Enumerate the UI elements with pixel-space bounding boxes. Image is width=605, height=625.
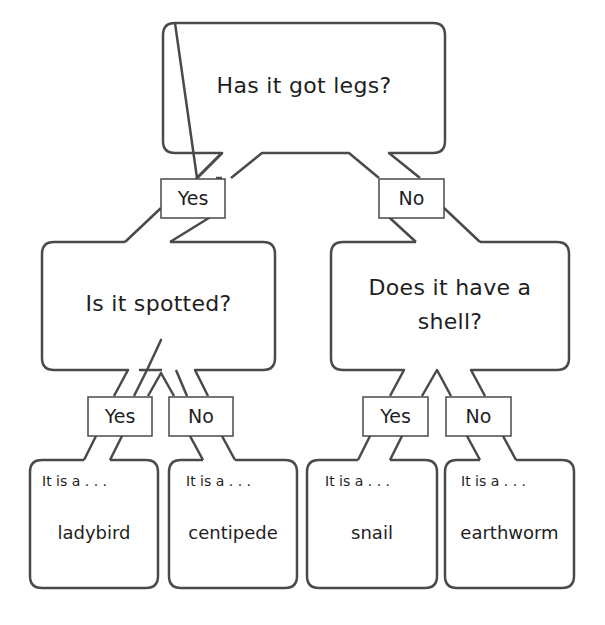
left-yes-to-leaf [84, 436, 122, 460]
leaf-centipede-answer: centipede [169, 521, 297, 545]
root-yes-label: Yes [161, 179, 225, 217]
root-question-text: Has it got legs? [163, 70, 445, 102]
leaf-centipede-intro: It is a . . . [186, 472, 251, 490]
root-yes-connector [196, 153, 222, 179]
right-yes-label: Yes [363, 397, 428, 435]
leaf-snail-answer: snail [307, 521, 437, 545]
root-no-label: No [379, 179, 444, 217]
left-center-peak [147, 340, 174, 396]
left-yes-label: Yes [88, 397, 152, 435]
leaf-ladybird-answer: ladybird [30, 521, 158, 545]
right-center-peak [422, 370, 451, 396]
right-no-to-leaf [467, 436, 516, 460]
right-question-text-line2: shell? [331, 306, 569, 338]
leaf-snail-intro: It is a . . . [325, 472, 390, 490]
right-question-text-line1: Does it have a [331, 272, 569, 304]
left-no-to-leaf [190, 436, 235, 460]
right-no-label: No [446, 397, 511, 435]
left-no-label: No [169, 397, 233, 435]
left-question-text: Is it spotted? [42, 288, 275, 320]
leaf-earthworm-intro: It is a . . . [461, 472, 526, 490]
leaf-ladybird-intro: It is a . . . [42, 472, 107, 490]
right-yes-to-leaf [358, 436, 402, 460]
leaf-earthworm-answer: earthworm [445, 521, 574, 545]
